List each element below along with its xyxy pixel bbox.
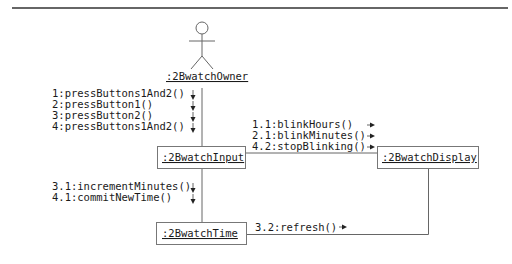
- object-label: :2BwatchDisplay: [382, 151, 477, 163]
- arrow-down-icon: [191, 90, 196, 133]
- message-label: 4.1:commitNewTime(): [52, 191, 172, 203]
- object-label: :2BwatchInput: [162, 151, 244, 163]
- arrow-right-icon: [367, 123, 375, 150]
- messages-input-to-time: 3.1:incrementMinutes() 4.1:commitNewTime…: [52, 180, 191, 203]
- message-label: 4:pressButtons1And2(): [52, 120, 185, 132]
- object-time: :2BwatchTime: [157, 223, 247, 245]
- message-label: 3.2:refresh(): [255, 221, 337, 233]
- actor-label: :2BwatchOwner: [166, 70, 248, 82]
- messages-input-to-display: 1.1:blinkHours() 2.1:blinkMinutes() 4.2:…: [252, 118, 366, 152]
- stick-figure-icon: [189, 22, 215, 69]
- object-label: :2BwatchTime: [162, 227, 238, 239]
- object-display: :2BwatchDisplay: [378, 147, 479, 169]
- object-input: :2BwatchInput: [158, 147, 246, 169]
- messages-owner-to-input: 1:pressButtons1And2() 2:pressButton1() 3…: [52, 87, 185, 132]
- arrow-down-icon: [191, 183, 196, 204]
- communication-diagram: :2BwatchOwner 1:pressButtons1And2() 2:pr…: [0, 0, 512, 264]
- message-label: 4.2:stopBlinking(): [252, 140, 366, 152]
- arrow-right-icon: [339, 225, 347, 230]
